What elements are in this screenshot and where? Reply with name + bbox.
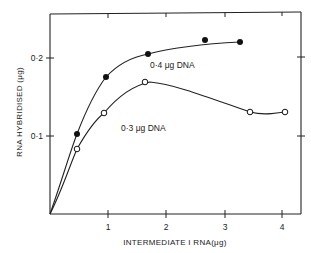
y-tick-label-0-1: 0·1 — [31, 131, 44, 141]
x-tick-label-2: 2 — [164, 222, 169, 232]
data-point-open — [282, 109, 288, 115]
x-axis-label: INTERMEDIATE I RNA(μg) — [123, 238, 227, 247]
y-tick-label-0-2: 0·2 — [31, 53, 44, 63]
series-0-3ug-markers — [74, 79, 288, 152]
data-point-filled — [237, 39, 243, 45]
plot-frame — [50, 12, 301, 214]
x-ticks — [108, 12, 282, 218]
series-label-0-4ug-dna: 0·4 μg DNA — [150, 60, 195, 70]
data-point-filled — [74, 131, 80, 137]
data-point-filled — [202, 37, 208, 43]
data-point-open — [142, 79, 148, 85]
x-tick-label-4: 4 — [280, 222, 285, 232]
chart: 1 2 3 4 0·1 0·2 INTERMEDIATE I RNA(μg) R… — [0, 0, 311, 253]
data-point-filled — [103, 74, 109, 80]
x-tick-label-3: 3 — [223, 222, 228, 232]
curve-0-3ug-dna — [50, 82, 285, 214]
data-point-open — [74, 146, 80, 152]
data-point-filled — [145, 51, 151, 57]
x-tick-label-1: 1 — [106, 222, 111, 232]
data-point-open — [101, 110, 107, 116]
series-label-0-3ug-dna: 0·3 μg DNA — [121, 123, 166, 133]
data-point-open — [247, 109, 253, 115]
y-axis-label: RNA HYBRIDISED (μg) — [15, 67, 24, 157]
